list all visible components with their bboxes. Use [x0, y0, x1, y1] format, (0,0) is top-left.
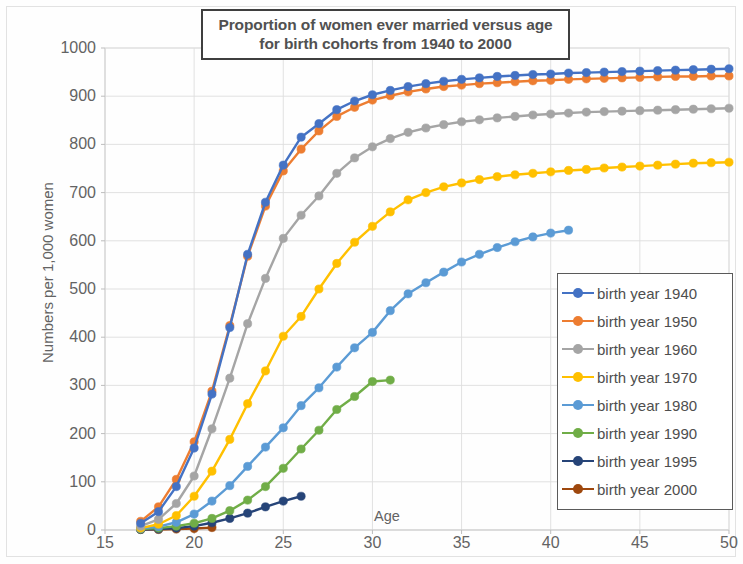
legend-marker-icon: [562, 482, 594, 496]
legend: birth year 1940birth year 1950birth year…: [557, 273, 733, 510]
y-tick-label: 600: [4, 232, 96, 250]
y-tick-label: 1000: [4, 39, 96, 57]
legend-label: birth year 1980: [597, 397, 697, 414]
legend-label: birth year 1940: [597, 285, 697, 302]
y-tick-label: 100: [4, 473, 96, 491]
x-tick-label: 25: [253, 534, 313, 552]
x-axis-title: Age: [374, 508, 400, 524]
x-tick-label: 40: [521, 534, 581, 552]
chart-container: Proportion of women ever married versus …: [0, 0, 743, 564]
y-tick-label: 800: [4, 135, 96, 153]
chart-title: Proportion of women ever married versus …: [201, 9, 570, 60]
y-tick-label: 200: [4, 425, 96, 443]
legend-item[interactable]: birth year 1980: [562, 391, 726, 419]
x-tick-label: 15: [75, 534, 135, 552]
legend-item[interactable]: birth year 1995: [562, 447, 726, 475]
legend-item[interactable]: birth year 1950: [562, 307, 726, 335]
legend-item[interactable]: birth year 1990: [562, 419, 726, 447]
legend-marker-icon: [562, 314, 594, 328]
legend-label: birth year 1960: [597, 341, 697, 358]
y-tick-label: 300: [4, 376, 96, 394]
x-tick-label: 20: [164, 534, 224, 552]
x-tick-label: 50: [699, 534, 743, 552]
legend-marker-icon: [562, 370, 594, 384]
chart-title-line-1: Proportion of women ever married versus …: [209, 15, 562, 34]
legend-label: birth year 1950: [597, 313, 697, 330]
legend-label: birth year 2000: [597, 481, 697, 498]
legend-marker-icon: [562, 454, 594, 468]
y-tick-label: 500: [4, 280, 96, 298]
legend-item[interactable]: birth year 1940: [562, 279, 726, 307]
legend-item[interactable]: birth year 1970: [562, 363, 726, 391]
x-tick-label: 30: [342, 534, 402, 552]
legend-marker-icon: [562, 398, 594, 412]
x-tick-label: 35: [432, 534, 492, 552]
legend-marker-icon: [562, 286, 594, 300]
legend-marker-icon: [562, 342, 594, 356]
y-tick-label: 900: [4, 87, 96, 105]
legend-marker-icon: [562, 426, 594, 440]
legend-label: birth year 1990: [597, 425, 697, 442]
legend-label: birth year 1995: [597, 453, 697, 470]
x-tick-label: 45: [610, 534, 670, 552]
chart-title-line-2: for birth cohorts from 1940 to 2000: [209, 34, 562, 53]
legend-item[interactable]: birth year 2000: [562, 475, 726, 503]
y-tick-label: 700: [4, 184, 96, 202]
legend-item[interactable]: birth year 1960: [562, 335, 726, 363]
y-tick-label: 400: [4, 328, 96, 346]
legend-label: birth year 1970: [597, 369, 697, 386]
